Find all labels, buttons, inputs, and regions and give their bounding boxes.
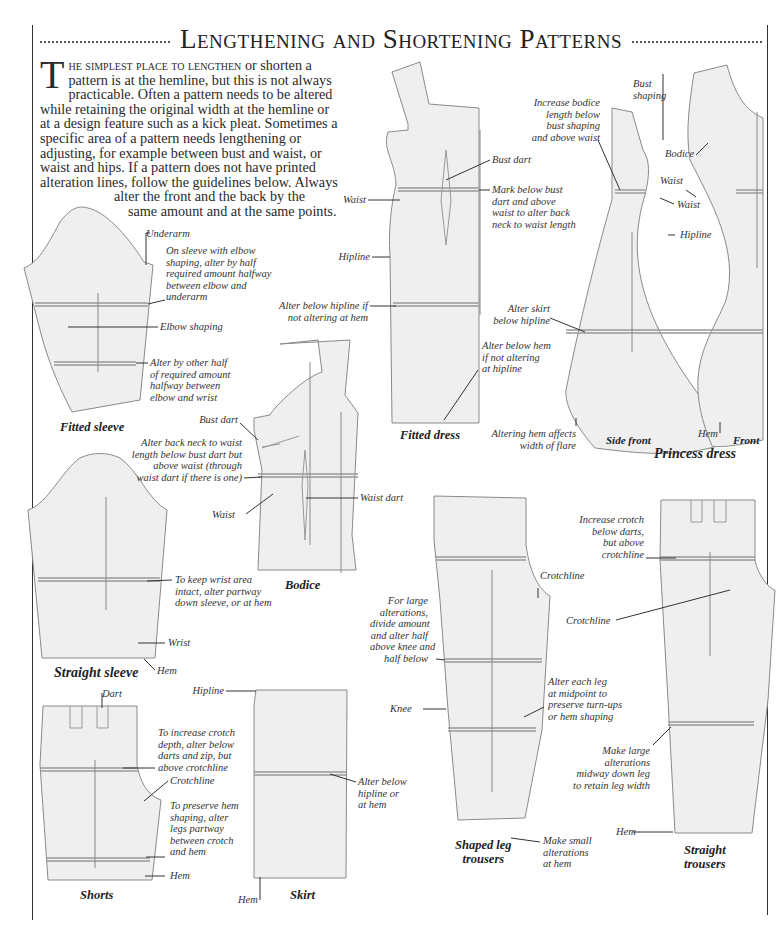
label-bodice: Bodice <box>665 148 694 160</box>
label-line: preserve turn-ups <box>548 699 622 711</box>
label-line: Make small <box>543 835 592 847</box>
caption-princess-dress: Princess dress <box>654 446 736 462</box>
princess-front-piece <box>688 65 763 447</box>
label-line: length below <box>530 109 600 121</box>
label-elbow-note: On sleeve with elbow shaping, alter by h… <box>166 245 271 303</box>
caption-fitted-sleeve: Fitted sleeve <box>60 420 124 435</box>
label-altering-hem: Altering hem affects width of flare <box>480 428 576 451</box>
caption-line: Straight <box>684 843 726 857</box>
label-bust-dart: Bust dart <box>198 414 238 426</box>
skirt-piece <box>254 690 347 878</box>
label-line: To preserve hem <box>170 800 239 812</box>
label-line: crotchline <box>570 549 644 561</box>
caption-straight-trousers: Straight trousers <box>684 843 726 871</box>
label-hem: Hem <box>616 826 636 838</box>
label-line: hipline or <box>358 788 407 800</box>
label-large-alterations: Make large alterations midway down leg t… <box>570 745 650 791</box>
label-line: above knee and <box>370 641 428 653</box>
label-line: not altering at hem <box>250 312 368 324</box>
label-line: Increase bodice <box>530 97 600 109</box>
label-line: at hipline <box>482 363 551 375</box>
label-alter-each-leg: Alter each leg at midpoint to preserve t… <box>548 676 622 722</box>
label-bust-dart: Bust dart <box>492 154 531 166</box>
label-dart: Dart <box>102 688 122 700</box>
label-line: To keep wrist area <box>175 574 272 586</box>
label-increase-crotch: Increase crotch below darts, but above c… <box>570 514 644 560</box>
label-line: and hem <box>170 846 239 858</box>
label-line: For large <box>370 595 428 607</box>
label-line: intact, alter partway <box>175 586 272 598</box>
caption-straight-sleeve: Straight sleeve <box>54 665 138 681</box>
label-line: Alter below hem <box>482 340 551 352</box>
label-hem: Hem <box>698 428 718 440</box>
caption-front: Front <box>733 434 759 446</box>
label-line: legs partway <box>170 823 239 835</box>
label-line: if not altering <box>482 352 551 364</box>
straight-sleeve-piece <box>28 454 167 659</box>
label-line: On sleeve with elbow <box>166 245 271 257</box>
label-waist-front: Waist <box>660 175 683 187</box>
label-line: below hipline <box>482 315 550 327</box>
label-line: Alter by other half <box>150 357 230 369</box>
label-alter-hipline: Alter below hipline if not altering at h… <box>250 300 368 323</box>
label-knee: Knee <box>390 703 412 715</box>
caption-line: trousers <box>455 852 512 866</box>
label-line: and above waist <box>530 132 600 144</box>
label-line: but above <box>570 537 644 549</box>
label-line: To increase crotch <box>158 727 235 739</box>
label-hipline: Hipline <box>330 251 370 263</box>
fitted-dress-piece <box>386 62 479 423</box>
label-line: darts and zip, but <box>158 750 235 762</box>
label-crotchline: Crotchline <box>540 570 585 582</box>
label-line: midway down leg <box>570 768 650 780</box>
label-mark-below: Mark below bust dart and above waist to … <box>492 184 576 230</box>
label-line: shaping, alter by half <box>166 257 271 269</box>
label-back-neck: Alter back neck to waist length below bu… <box>118 437 242 483</box>
label-hem: Hem <box>157 665 177 677</box>
label-waist-side: Waist <box>677 199 700 211</box>
label-line: Alter back neck to waist <box>118 437 242 449</box>
label-bust-shaping: Bust shaping <box>633 78 666 101</box>
label-line: Alter each leg <box>548 676 622 688</box>
label-waist: Waist <box>328 194 366 206</box>
label-line: width of flare <box>480 440 576 452</box>
label-hem: Hem <box>238 894 258 906</box>
label-line: depth, alter below <box>158 739 235 751</box>
label-line: above waist (through <box>118 460 242 472</box>
caption-side-front: Side front <box>606 434 651 446</box>
label-line: shaping, alter <box>170 812 239 824</box>
label-waist: Waist <box>212 509 235 521</box>
label-line: alterations <box>543 847 592 859</box>
label-alter-skirt: Alter skirt below hipline <box>482 303 550 326</box>
caption-line: Shaped leg <box>455 838 512 852</box>
fitted-sleeve-piece <box>24 207 153 412</box>
label-waist-dart: Waist dart <box>360 492 403 504</box>
label-line: Alter below hipline if <box>250 300 368 312</box>
label-line: required amount halfway <box>166 268 271 280</box>
label-increase-bodice: Increase bodice length below bust shapin… <box>530 97 600 143</box>
page: Lengthening and Shortening Patterns T he… <box>0 0 781 929</box>
label-alter-below: Alter below hipline or at hem <box>358 776 407 811</box>
caption-shaped-leg-trousers: Shaped leg trousers <box>455 838 512 866</box>
label-line: dart and above <box>492 196 576 208</box>
label-other-half: Alter by other half of required amount h… <box>150 357 230 403</box>
label-line: below darts, <box>570 526 644 538</box>
label-line: divide amount <box>370 618 428 630</box>
bodice-piece <box>254 340 358 570</box>
label-line: Alter skirt <box>482 303 550 315</box>
label-line: above crotchline <box>158 762 235 774</box>
label-large-alterations: For large alterations, divide amount and… <box>370 595 428 664</box>
label-line: Altering hem affects <box>480 428 576 440</box>
label-alter-hem: Alter below hem if not altering at hipli… <box>482 340 551 375</box>
label-crotchline: Crotchline <box>170 775 215 787</box>
label-line: at midpoint to <box>548 688 622 700</box>
label-crotch-depth: To increase crotch depth, alter below da… <box>158 727 235 773</box>
caption-line: trousers <box>684 857 726 871</box>
caption-shorts: Shorts <box>80 888 113 903</box>
straight-trousers-piece <box>660 500 775 833</box>
label-line: of required amount <box>150 369 230 381</box>
label-line: half below <box>370 653 428 665</box>
shorts-piece <box>40 706 161 880</box>
label-hem: Hem <box>170 870 190 882</box>
label-keep-wrist: To keep wrist area intact, alter partway… <box>175 574 272 609</box>
